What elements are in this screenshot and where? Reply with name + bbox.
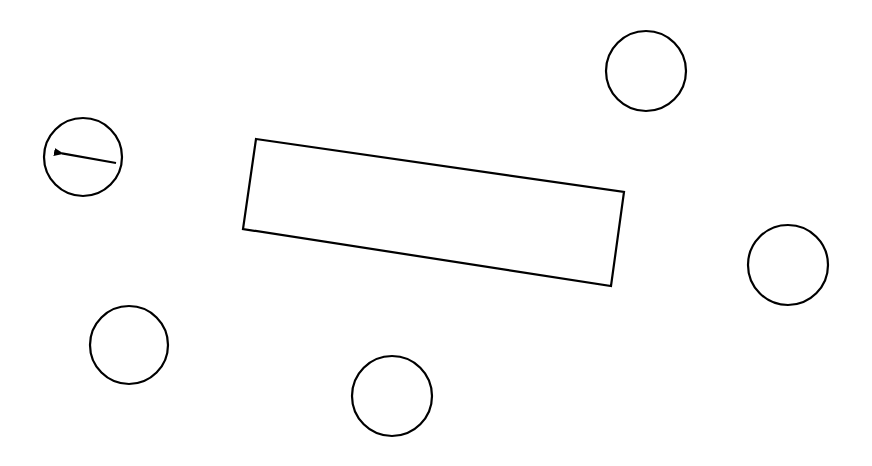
table-rectangle (243, 139, 624, 286)
diagram-canvas (0, 0, 872, 466)
circle-group (90, 31, 828, 436)
agent-circle-with-arrow (44, 118, 122, 196)
arrow-icon (62, 153, 116, 163)
circle-4 (352, 356, 432, 436)
circle-3 (90, 306, 168, 384)
circle-1 (606, 31, 686, 111)
circle-2 (748, 225, 828, 305)
diagram-svg (0, 0, 872, 466)
